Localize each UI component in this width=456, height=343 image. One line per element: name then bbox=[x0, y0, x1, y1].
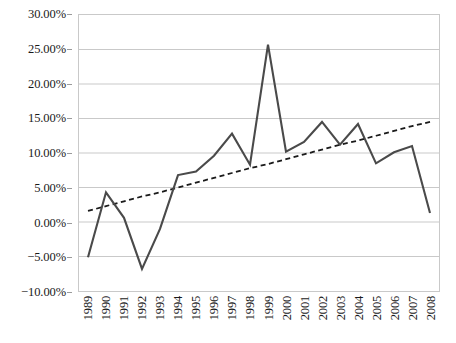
x-tick-label: 1990 bbox=[99, 296, 114, 320]
x-tick-label: 1997 bbox=[225, 296, 240, 320]
chart-svg bbox=[79, 15, 439, 291]
x-tick-label: 1999 bbox=[262, 296, 277, 320]
y-tick-mark bbox=[67, 49, 72, 50]
y-tick-label: −10.00% bbox=[21, 285, 66, 300]
plot-area bbox=[78, 14, 440, 292]
gridlines-group bbox=[79, 50, 439, 257]
x-tick-label: 1996 bbox=[207, 296, 222, 320]
y-tick-mark bbox=[67, 223, 72, 224]
x-tick-label: 2001 bbox=[298, 296, 313, 320]
x-tick-label: 1991 bbox=[117, 296, 132, 320]
y-tick-label: 25.00% bbox=[28, 41, 66, 56]
x-tick-label: 2008 bbox=[424, 296, 439, 320]
x-axis: 1989199019911992199319941995199619971998… bbox=[78, 296, 440, 342]
x-tick-label: 1995 bbox=[189, 296, 204, 320]
y-tick-mark bbox=[67, 84, 72, 85]
x-tick-label: 2006 bbox=[388, 296, 403, 320]
y-axis: 30.00%25.00%20.00%15.00%10.00%5.00%0.00%… bbox=[0, 14, 72, 292]
x-tick-label: 1993 bbox=[153, 296, 168, 320]
y-tick-mark bbox=[67, 257, 72, 258]
y-tick-label: 20.00% bbox=[28, 76, 66, 91]
y-tick-label: −5.00% bbox=[27, 250, 66, 265]
y-tick-label: 15.00% bbox=[28, 111, 66, 126]
y-tick-mark bbox=[67, 153, 72, 154]
y-tick-label: 10.00% bbox=[28, 146, 66, 161]
y-tick-label: 30.00% bbox=[28, 7, 66, 22]
y-tick-label: 0.00% bbox=[34, 215, 66, 230]
y-tick-label: 5.00% bbox=[34, 180, 66, 195]
line-chart: 30.00%25.00%20.00%15.00%10.00%5.00%0.00%… bbox=[0, 0, 456, 343]
data-series-path bbox=[88, 45, 430, 269]
y-tick-mark bbox=[67, 118, 72, 119]
x-tick-label: 2000 bbox=[280, 296, 295, 320]
x-tick-label: 1994 bbox=[171, 296, 186, 320]
x-tick-label: 2007 bbox=[406, 296, 421, 320]
x-tick-label: 2003 bbox=[334, 296, 349, 320]
x-tick-label: 1989 bbox=[81, 296, 96, 320]
x-tick-label: 1992 bbox=[135, 296, 150, 320]
y-tick-mark bbox=[67, 188, 72, 189]
x-tick-label: 1998 bbox=[243, 296, 258, 320]
x-tick-label: 2002 bbox=[316, 296, 331, 320]
x-tick-label: 2005 bbox=[370, 296, 385, 320]
x-tick-label: 2004 bbox=[352, 296, 367, 320]
y-tick-mark bbox=[67, 292, 72, 293]
trendline-path bbox=[88, 122, 430, 211]
y-tick-mark bbox=[67, 14, 72, 15]
